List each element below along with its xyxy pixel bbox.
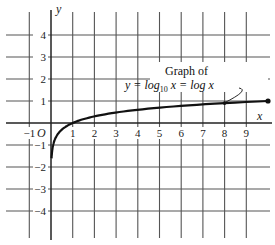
svg-text:−1: −1 bbox=[23, 127, 35, 139]
y-axis-label: y bbox=[55, 2, 62, 16]
svg-text:2: 2 bbox=[92, 127, 98, 139]
svg-text:4: 4 bbox=[135, 127, 141, 139]
svg-text:8: 8 bbox=[222, 127, 228, 139]
annotation-suffix: x = log x bbox=[168, 78, 215, 92]
svg-text:9: 9 bbox=[244, 127, 250, 139]
svg-text:7: 7 bbox=[200, 127, 206, 139]
annotation-sub: 10 bbox=[160, 85, 168, 94]
svg-text:5: 5 bbox=[157, 127, 163, 139]
origin-label: O bbox=[37, 126, 46, 140]
log-graph: −11234567894321−1−2−3−4 y x O Graph of y… bbox=[0, 0, 275, 245]
svg-text:4: 4 bbox=[41, 29, 47, 41]
svg-text:−1: −1 bbox=[34, 139, 46, 151]
svg-text:1: 1 bbox=[70, 127, 76, 139]
svg-text:3: 3 bbox=[113, 127, 119, 139]
svg-text:−4: −4 bbox=[34, 205, 46, 217]
svg-text:6: 6 bbox=[178, 127, 184, 139]
svg-text:−2: −2 bbox=[34, 161, 46, 173]
annotation-prefix: y = log bbox=[124, 78, 160, 92]
annotation-line2: y = log10 x = log x bbox=[124, 78, 215, 94]
svg-text:2: 2 bbox=[41, 73, 47, 85]
annotation-line1: Graph of bbox=[165, 64, 208, 78]
svg-text:3: 3 bbox=[41, 51, 47, 63]
svg-text:−3: −3 bbox=[34, 183, 46, 195]
svg-text:1: 1 bbox=[41, 95, 47, 107]
x-axis-label: x bbox=[256, 109, 263, 123]
